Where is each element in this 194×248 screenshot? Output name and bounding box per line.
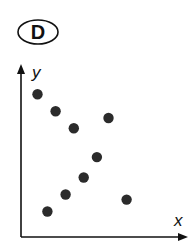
data-point: [60, 189, 70, 199]
data-point: [92, 152, 102, 162]
x-axis-arrow-icon: [178, 233, 188, 241]
chart-label: D: [31, 21, 45, 43]
x-axis-label: x: [173, 211, 183, 230]
y-axis-label: y: [31, 63, 42, 82]
data-point: [32, 89, 42, 99]
data-point: [69, 123, 79, 133]
scatter-chart: D y x: [0, 0, 194, 248]
chart-label-badge: D: [18, 20, 58, 44]
data-points: [32, 89, 132, 217]
y-axis-arrow-icon: [17, 64, 25, 74]
data-point: [42, 206, 52, 216]
data-point: [103, 113, 113, 123]
data-point: [50, 106, 60, 116]
data-point: [121, 194, 131, 204]
data-point: [79, 172, 89, 182]
